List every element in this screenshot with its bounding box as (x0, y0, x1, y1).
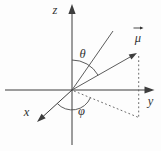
vector-diagram-figure: z y x θ φ μ (0, 0, 161, 151)
y-axis-label: y (146, 94, 154, 108)
x-axis (37, 90, 72, 122)
mu-vector-label: μ (134, 31, 141, 45)
mu-vector-label-group: μ (134, 27, 144, 45)
z-axis-arrowhead-icon (68, 4, 75, 14)
y-axis (5, 87, 155, 94)
z-axis-label: z (52, 3, 58, 17)
theta-angle-label: θ (79, 47, 85, 61)
theta-angle-arc (72, 60, 98, 75)
phi-angle-label: φ (78, 104, 85, 118)
mu-overhead-arrow-icon (134, 27, 144, 30)
z-axis (68, 4, 75, 145)
y-axis-arrowhead-icon (145, 87, 155, 94)
mu-vector-arrowhead-icon (129, 53, 137, 60)
diagram-canvas: z y x θ φ μ (0, 0, 161, 151)
x-axis-label: x (23, 105, 30, 119)
x-axis-line (41, 90, 73, 119)
